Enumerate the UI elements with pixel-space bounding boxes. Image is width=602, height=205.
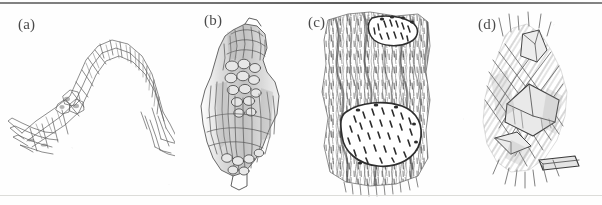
panel-a-artwork (0, 0, 175, 205)
panel-b-artwork (175, 0, 300, 205)
panel-c-artwork (300, 0, 455, 205)
panel-d-artwork (455, 0, 602, 205)
figure-panel-b: (b) (175, 0, 300, 205)
figure-sheet: (a) (0, 0, 602, 205)
figure-panel-a: (a) (0, 0, 175, 205)
figure-panel-c: (c) (300, 0, 455, 205)
figure-panel-d: (d) (455, 0, 602, 205)
bottom-rule-divider (0, 195, 602, 196)
